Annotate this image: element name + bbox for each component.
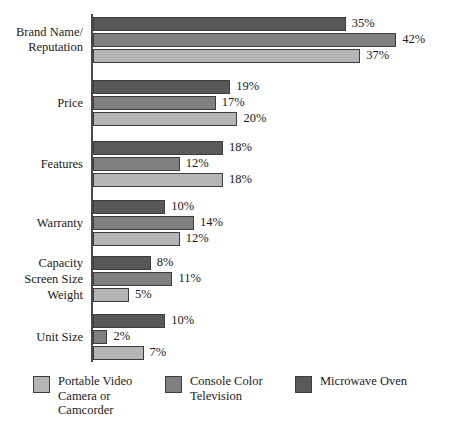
bar-group-unit-size: Unit Size10%2%7% [0,314,455,360]
bar-row: 11% [93,272,455,286]
bar-capacity-screen-size-weight [93,288,129,302]
value-axis-line [91,14,93,362]
bar-value-label: 17% [222,95,245,110]
bar-value-label: 35% [352,16,375,31]
bar-warranty [93,216,194,230]
legend-label-portable-video-camera-or-camcorder: Portable Video Camera or Camcorder [58,374,132,418]
bar-warranty [93,200,165,214]
bar-row: 12% [93,157,455,171]
category-label-price: Price [57,96,83,111]
bar-row: 35% [93,17,455,31]
bar-price [93,80,230,94]
category-label-unit-size: Unit Size [36,330,83,345]
bar-price [93,112,237,126]
legend-swatch-console-color-television [165,376,182,393]
bar-row: 14% [93,216,455,230]
category-label: Weight [47,288,83,303]
bar-value-label: 18% [229,172,252,187]
bar-row: 18% [93,141,455,155]
legend-swatch-portable-video-camera-or-camcorder [33,376,50,393]
bar-features [93,173,223,187]
bar-value-label: 12% [186,156,209,171]
bar-group-features: Features18%12%18% [0,141,455,187]
bar-value-label: 10% [171,199,194,214]
chart-legend: Portable Video Camera or CamcorderConsol… [0,374,455,432]
bar-group-brand-name-reputation: Brand Name/ Reputation35%42%37% [0,17,455,63]
bar-brand-name-reputation [93,33,396,47]
bar-row: 10% [93,314,455,328]
bar-value-label: 42% [402,32,425,47]
bar-brand-name-reputation [93,17,346,31]
legend-item-microwave-oven: Microwave Oven [295,374,407,393]
bar-value-label: 7% [150,345,167,360]
bar-group-capacity-screen-size-weight: CapacityScreen SizeWeight8%11%5% [0,256,455,302]
bar-row: 19% [93,80,455,94]
category-label: Capacity [39,256,83,271]
bar-value-label: 12% [186,231,209,246]
legend-item-portable-video-camera-or-camcorder: Portable Video Camera or Camcorder [33,374,132,418]
bar-group-price: Price19%17%20% [0,80,455,126]
bar-value-label: 8% [157,255,174,270]
bar-unit-size [93,330,107,344]
bar-value-label: 14% [200,215,223,230]
bar-row: 18% [93,173,455,187]
bar-value-label: 2% [113,329,130,344]
bar-unit-size [93,314,165,328]
bar-value-label: 11% [178,271,200,286]
bar-value-label: 18% [229,140,252,155]
legend-label-console-color-television: Console Color Television [190,374,263,403]
bar-group-warranty: Warranty10%14%12% [0,200,455,246]
bar-capacity-screen-size-weight [93,272,172,286]
bar-features [93,141,223,155]
category-label-warranty: Warranty [37,216,83,231]
bar-row: 5% [93,288,455,302]
bar-value-label: 10% [171,313,194,328]
bar-row: 2% [93,330,455,344]
bar-value-label: 5% [135,287,152,302]
bar-row: 20% [93,112,455,126]
bar-value-label: 37% [366,48,389,63]
legend-item-console-color-television: Console Color Television [165,374,263,403]
horizontal-bar-chart: Brand Name/ Reputation35%42%37%Price19%1… [0,0,455,432]
bar-price [93,96,216,110]
legend-swatch-microwave-oven [295,376,312,393]
bar-row: 8% [93,256,455,270]
bar-row: 37% [93,49,455,63]
bar-features [93,157,180,171]
bar-row: 7% [93,346,455,360]
bar-capacity-screen-size-weight [93,256,151,270]
bar-row: 42% [93,33,455,47]
category-label-brand-name-reputation: Brand Name/ Reputation [16,25,83,55]
legend-label-microwave-oven: Microwave Oven [320,374,407,389]
category-label: Screen Size [24,272,83,287]
bar-value-label: 19% [236,79,259,94]
bar-warranty [93,232,180,246]
bar-value-label: 20% [243,111,266,126]
plot-area: Brand Name/ Reputation35%42%37%Price19%1… [0,0,455,370]
bar-unit-size [93,346,144,360]
bar-row: 10% [93,200,455,214]
category-label-features: Features [41,157,83,172]
bar-row: 12% [93,232,455,246]
bar-row: 17% [93,96,455,110]
bar-brand-name-reputation [93,49,360,63]
